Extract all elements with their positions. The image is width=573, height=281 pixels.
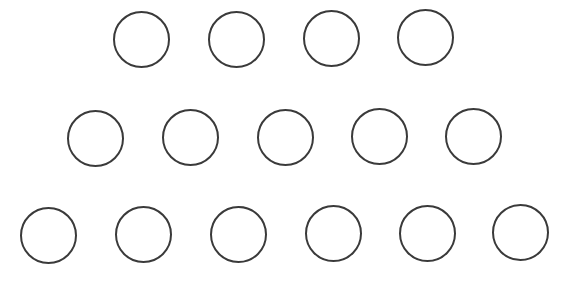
circle-2-5: [445, 108, 502, 165]
circle-1-4: [397, 9, 454, 66]
circle-3-5: [399, 205, 456, 262]
circle-1-1: [113, 11, 170, 68]
circle-diagram: [0, 0, 573, 281]
circle-1-2: [208, 11, 265, 68]
circle-3-4: [305, 205, 362, 262]
circle-3-6: [492, 204, 549, 261]
circle-3-3: [210, 206, 267, 263]
circle-1-3: [303, 10, 360, 67]
circle-2-2: [162, 109, 219, 166]
circle-3-2: [115, 206, 172, 263]
circle-2-4: [351, 108, 408, 165]
circle-2-3: [257, 109, 314, 166]
circle-3-1: [20, 207, 77, 264]
circle-2-1: [67, 110, 124, 167]
